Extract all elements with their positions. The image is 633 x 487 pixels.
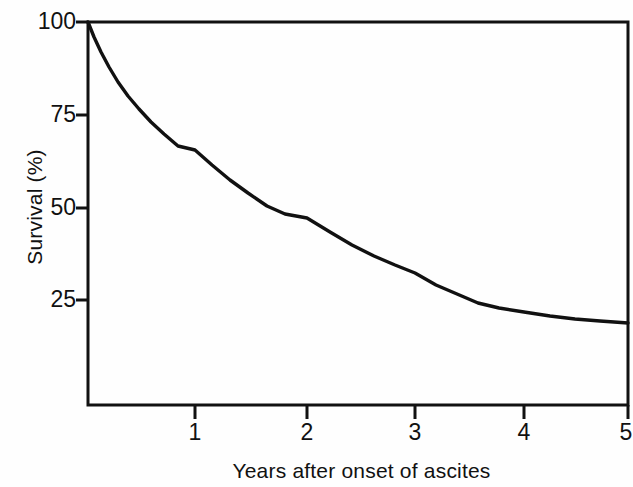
x-tick-label-1: 1: [175, 421, 215, 444]
x-axis-title: Years after onset of ascites: [0, 459, 633, 483]
survival-chart-figure: 100 75 50 25 1 2 3 4 5 Survival (%) Year…: [0, 0, 633, 487]
x-tick-label-2: 2: [287, 421, 327, 444]
x-tick-label-group: 1 2 3 4 5: [0, 421, 633, 455]
survival-curve-line: [88, 22, 628, 323]
y-axis-title: Survival (%): [23, 107, 47, 307]
y-tick-label-100: 100: [20, 10, 76, 33]
plot-frame: [88, 22, 628, 405]
x-tick-label-5: 5: [606, 421, 633, 444]
y-axis-ticks: [76, 22, 88, 300]
plot-area: [0, 0, 633, 487]
x-tick-label-3: 3: [395, 421, 435, 444]
x-axis-ticks: [195, 405, 628, 419]
x-tick-label-4: 4: [504, 421, 544, 444]
